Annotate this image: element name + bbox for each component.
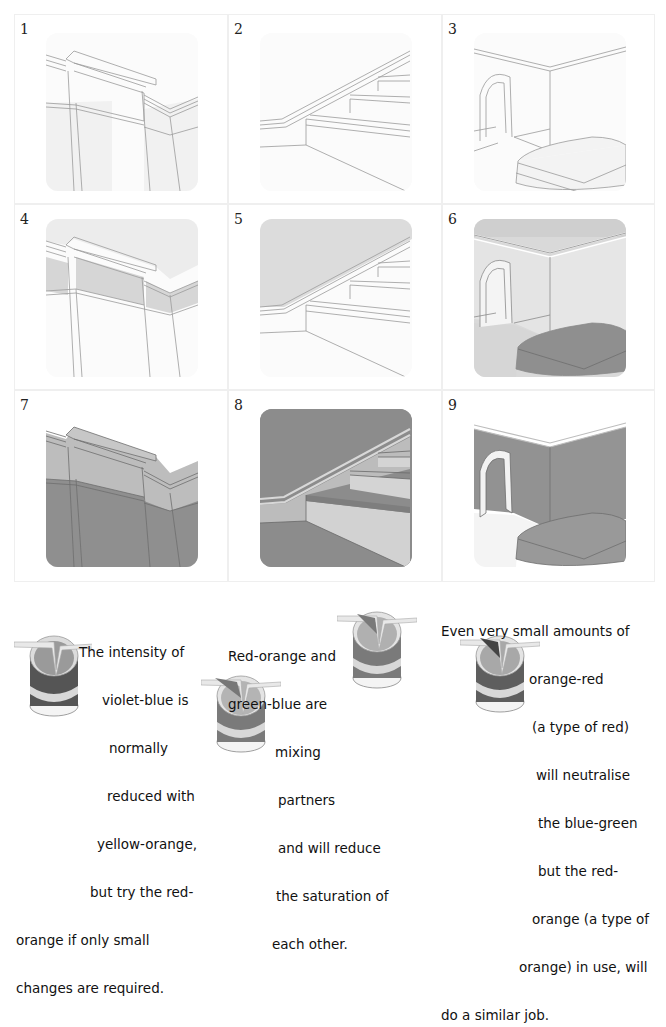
- room-illustration: [474, 33, 626, 191]
- room-illustration: [474, 409, 626, 567]
- panel-number: 3: [448, 21, 457, 37]
- panel-number: 6: [448, 211, 457, 227]
- panel-number: 8: [234, 397, 243, 413]
- caption-line: but the red-: [441, 863, 649, 879]
- caption-line: changes are required.: [16, 980, 197, 996]
- caption-line: violet-blue is: [16, 692, 197, 708]
- caption-neutralise: Even very small amounts of orange-red (a…: [441, 591, 649, 1027]
- caption-line: Red-orange and: [228, 648, 389, 664]
- caption-mixing-partners: Red-orange and green-blue are mixing par…: [228, 616, 389, 968]
- panel-4: 4: [14, 204, 228, 390]
- caption-line: orange (a type of: [441, 911, 649, 927]
- panel-number: 7: [20, 397, 29, 413]
- caption-line: orange-red: [441, 671, 649, 687]
- staircase-illustration: [260, 33, 412, 191]
- illustration-grid: 1 2: [14, 14, 655, 582]
- panel-3: 3: [442, 14, 655, 204]
- caption-line: the saturation of: [228, 888, 389, 904]
- panel-8: 8: [228, 390, 442, 582]
- caption-line: do a similar job.: [441, 1007, 649, 1023]
- cornice-illustration: [46, 219, 198, 377]
- cornice-illustration: [46, 33, 198, 191]
- caption-line: The intensity of: [16, 644, 197, 660]
- panel-number: 9: [448, 397, 457, 413]
- caption-line: mixing: [228, 744, 389, 760]
- caption-line: reduced with: [16, 788, 197, 804]
- panel-2: 2: [228, 14, 442, 204]
- room-illustration: [474, 219, 626, 377]
- caption-line: orange) in use, will: [441, 959, 649, 975]
- panel-number: 2: [234, 21, 243, 37]
- panel-5: 5: [228, 204, 442, 390]
- panel-number: 4: [20, 211, 29, 227]
- caption-line: partners: [228, 792, 389, 808]
- caption-violet-blue: The intensity of violet-blue is normally…: [16, 612, 197, 1012]
- panel-6: 6: [442, 204, 655, 390]
- staircase-illustration: [260, 219, 412, 377]
- caption-line: orange if only small: [16, 932, 197, 948]
- caption-line: green-blue are: [228, 696, 389, 712]
- caption-line: will neutralise: [441, 767, 649, 783]
- caption-line: and will reduce: [228, 840, 389, 856]
- caption-line: but try the red-: [16, 884, 197, 900]
- caption-line: each other.: [228, 936, 389, 952]
- caption-line: yellow-orange,: [16, 836, 197, 852]
- caption-line: normally: [16, 740, 197, 756]
- panel-1: 1: [14, 14, 228, 204]
- staircase-illustration: [260, 409, 412, 567]
- panel-number: 5: [234, 211, 243, 227]
- panel-number: 1: [20, 21, 29, 37]
- panel-9: 9: [442, 390, 655, 582]
- caption-line: Even very small amounts of: [441, 623, 649, 639]
- caption-line: (a type of red): [441, 719, 649, 735]
- cornice-illustration: [46, 409, 198, 567]
- caption-line: the blue-green: [441, 815, 649, 831]
- panel-7: 7: [14, 390, 228, 582]
